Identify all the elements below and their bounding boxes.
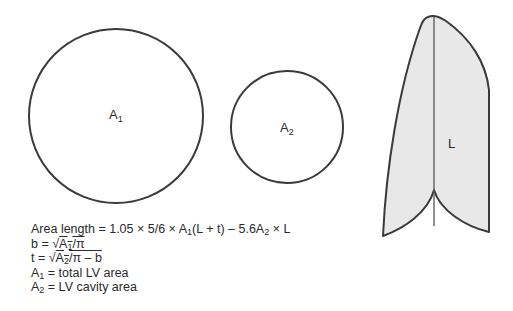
formula-block: Area length = 1.05 × 5/6 × A1(L + t) – 5… [31,222,290,295]
left-ventricle-shape [383,16,489,236]
label-l: L [448,136,455,151]
a1-definition: A1 = total LV area [31,266,290,281]
b-formula: b = √A1/π [31,237,290,252]
t-formula: t = √A2/π – b [31,251,290,266]
a2-definition: A2 = LV cavity area [31,280,290,295]
label-a1: A1 [109,107,123,124]
label-a2: A2 [280,120,294,137]
area-length-formula: Area length = 1.05 × 5/6 × A1(L + t) – 5… [31,222,290,237]
